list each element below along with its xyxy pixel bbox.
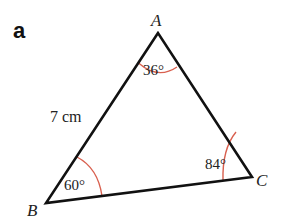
side-length-AB: 7 cm bbox=[50, 108, 82, 125]
diagram-canvas: a A B C 36° 60° 84° 7 cm bbox=[0, 0, 286, 223]
triangle-diagram: a A B C 36° 60° 84° 7 cm bbox=[0, 0, 286, 223]
angle-measure-A: 36° bbox=[143, 62, 164, 78]
angle-measure-B: 60° bbox=[64, 177, 85, 193]
part-label: a bbox=[13, 18, 26, 43]
vertex-label-A: A bbox=[150, 11, 162, 30]
vertex-label-C: C bbox=[256, 171, 268, 190]
angle-measure-C: 84° bbox=[205, 156, 226, 172]
vertex-label-B: B bbox=[27, 201, 38, 220]
